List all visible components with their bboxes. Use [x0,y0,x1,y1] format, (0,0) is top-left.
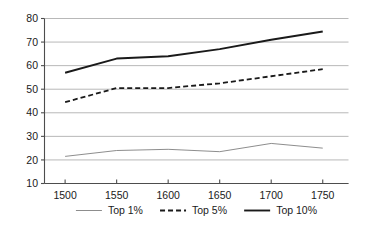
x-tick-label-1750: 1750 [311,189,335,201]
x-tick-label-1650: 1650 [208,189,232,201]
data-series [65,31,323,156]
y-tick-label-80: 80 [26,12,38,24]
x-tick-label-1550: 1550 [105,189,129,201]
x-tick-label-1500: 1500 [53,189,77,201]
y-tick-label-20: 20 [26,154,38,166]
legend-label-top-1[interactable]: Top 1% [108,204,143,216]
y-tick-label-50: 50 [26,83,38,95]
line-chart: 1020304050607080 15001550160016501700175… [0,0,370,234]
x-tick-labels: 150015501600165017001750 [53,189,334,201]
y-tick-label-10: 10 [26,177,38,189]
x-tick-label-1600: 1600 [156,189,180,201]
y-axis [41,19,45,184]
series-line-top-5 [65,69,323,102]
chart-container: 1020304050607080 15001550160016501700175… [0,0,370,234]
x-tick-label-1700: 1700 [260,189,284,201]
x-axis [45,180,349,184]
legend-label-top-10[interactable]: Top 10% [276,204,317,216]
chart-legend: Top 1%Top 5%Top 10% [76,204,317,216]
y-tick-label-30: 30 [26,130,38,142]
series-line-top-10 [65,31,323,72]
y-tick-label-60: 60 [26,59,38,71]
series-line-top-1 [65,143,323,156]
legend-label-top-5[interactable]: Top 5% [192,204,227,216]
y-tick-labels: 1020304050607080 [26,12,38,189]
gridlines [45,19,349,184]
y-tick-label-70: 70 [26,36,38,48]
y-tick-label-40: 40 [26,106,38,118]
